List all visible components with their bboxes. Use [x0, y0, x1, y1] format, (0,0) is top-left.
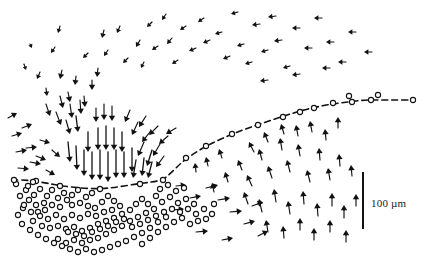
arrow-shaft	[26, 147, 32, 148]
cell-marker-circle	[147, 225, 152, 230]
arrow-shaft	[140, 142, 144, 151]
cell-marker-circle	[39, 223, 44, 228]
velocity-arrow	[97, 150, 103, 180]
arrow-head	[353, 194, 359, 199]
cell-marker-circle	[91, 249, 96, 254]
arrow-shaft	[127, 110, 130, 117]
arrow-shaft	[288, 165, 290, 172]
arrow-head	[348, 29, 352, 34]
velocity-arrow	[336, 154, 342, 166]
velocity-arrow	[121, 152, 127, 178]
cell-marker-circle	[77, 200, 82, 205]
cell-marker-circle	[163, 224, 168, 229]
cell-marker-circle	[127, 207, 132, 212]
velocity-arrow	[244, 219, 255, 225]
velocity-arrow	[364, 49, 372, 54]
cell-marker-circle	[15, 212, 20, 217]
boundary-marker-circle	[297, 109, 302, 114]
velocity-arrow	[95, 128, 101, 150]
velocity-arrow	[245, 61, 252, 66]
cell-marker-circle	[30, 218, 35, 223]
velocity-arrow	[26, 144, 37, 150]
arrow-shaft	[308, 175, 310, 182]
velocity-arrow	[327, 220, 333, 232]
velocity-arrow	[294, 125, 300, 136]
arrow-shaft	[221, 154, 222, 158]
cell-marker-circle	[121, 216, 126, 221]
arrow-head	[68, 112, 74, 118]
cell-marker-circle	[49, 202, 54, 207]
velocity-arrow	[51, 47, 55, 53]
cell-marker-circle	[209, 211, 214, 216]
velocity-arrow	[28, 44, 32, 48]
cell-marker-circle	[25, 183, 30, 188]
arrow-shaft	[175, 60, 178, 62]
velocity-arrow	[137, 142, 144, 156]
cell-marker-circle	[143, 210, 148, 215]
cell-marker-circle	[117, 203, 122, 208]
arrow-head	[237, 208, 242, 214]
cell-marker-circle	[173, 188, 178, 193]
arrow-shaft	[246, 197, 248, 204]
velocity-arrow	[279, 124, 285, 134]
arrow-shaft	[190, 197, 196, 198]
velocity-arrow	[89, 152, 95, 180]
arrow-shaft	[265, 50, 268, 51]
velocity-arrow	[46, 170, 55, 176]
velocity-arrow	[353, 194, 359, 206]
arrow-head	[322, 129, 328, 134]
velocity-arrow	[326, 39, 334, 44]
arrow-head	[111, 145, 117, 150]
arrow-shaft	[222, 239, 228, 240]
arrow-shaft	[244, 222, 250, 224]
arrow-shaft	[61, 70, 62, 74]
velocity-arrow	[65, 120, 71, 134]
arrow-head	[343, 230, 349, 235]
cell-marker-circle	[47, 225, 52, 230]
velocity-arrow	[231, 11, 238, 16]
arrow-shaft	[275, 194, 276, 202]
velocity-arrow	[57, 26, 62, 33]
velocity-arrow	[93, 108, 99, 122]
velocity-arrow	[280, 226, 286, 238]
cell-marker-circle	[42, 207, 47, 212]
cell-marker-circle	[137, 221, 142, 226]
velocity-arrow	[248, 142, 254, 152]
arrow-head	[89, 175, 95, 180]
arrow-head	[326, 168, 332, 174]
cell-marker-circle	[113, 219, 118, 224]
velocity-arrow	[56, 112, 62, 125]
velocity-arrow	[103, 126, 109, 150]
velocity-arrow	[246, 175, 252, 186]
cell-marker-circle	[61, 216, 66, 221]
arrow-shaft	[60, 96, 62, 103]
cell-marker-circle	[155, 219, 160, 224]
cell-marker-circle	[97, 226, 102, 231]
cell-marker-circle	[161, 209, 166, 214]
cell-marker-circle	[151, 206, 156, 211]
arrow-head	[300, 191, 306, 196]
arrow-shaft	[281, 143, 282, 150]
velocity-arrow	[123, 58, 128, 63]
arrow-shaft	[289, 206, 290, 214]
arrow-head	[260, 78, 265, 83]
velocity-arrow	[101, 104, 107, 120]
cell-marker-circle	[145, 201, 150, 206]
arrow-shaft	[143, 158, 144, 171]
arrow-shaft	[18, 168, 24, 169]
cell-marker-circle	[147, 235, 152, 240]
arrow-head	[94, 72, 100, 77]
cell-marker-circle	[129, 224, 134, 229]
velocity-arrow	[149, 126, 158, 135]
velocity-arrow	[285, 160, 291, 172]
velocity-arrow	[258, 230, 268, 236]
cell-marker-circle	[145, 217, 150, 222]
cell-marker-circle	[211, 201, 216, 206]
velocity-arrow	[167, 38, 172, 44]
arrow-shaft	[76, 116, 77, 127]
arrow-head	[142, 136, 148, 142]
boundary-marker-circle	[229, 131, 234, 136]
velocity-arrow	[131, 122, 138, 135]
cell-marker-circle	[27, 227, 32, 232]
velocity-arrow	[297, 218, 303, 230]
